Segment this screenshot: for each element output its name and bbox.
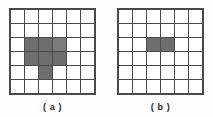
grid-cell [39, 10, 52, 23]
grid-a [9, 8, 96, 95]
panel-b: ( b ) [117, 8, 204, 112]
grid-cell [119, 80, 132, 93]
grid-cell [67, 52, 80, 65]
grid-cell [175, 80, 188, 93]
grid-cell [39, 38, 52, 51]
grid-cell [147, 38, 160, 51]
grid-cell [133, 24, 146, 37]
grid-cell [81, 52, 94, 65]
grid-cell [175, 52, 188, 65]
grid-cell [119, 52, 132, 65]
grid-cell [67, 10, 80, 23]
grid-cell [25, 24, 38, 37]
grid-cell [39, 52, 52, 65]
grid-cell [133, 80, 146, 93]
figure-container: ( a ) ( b ) [0, 0, 213, 117]
grid-cell [53, 66, 66, 79]
grid-cell [189, 38, 202, 51]
grid-cell [147, 52, 160, 65]
grid-cell [53, 52, 66, 65]
grid-cell [81, 66, 94, 79]
grid-cell [161, 38, 174, 51]
grid-cell [25, 52, 38, 65]
grid-cell [67, 66, 80, 79]
grid-cell [119, 10, 132, 23]
grid-cell [189, 24, 202, 37]
grid-cell [11, 80, 24, 93]
grid-cell [81, 24, 94, 37]
grid-cell [133, 52, 146, 65]
grid-cell [11, 66, 24, 79]
grid-cell [25, 80, 38, 93]
grid-cell [81, 10, 94, 23]
grid-cell [175, 10, 188, 23]
grid-cell [147, 80, 160, 93]
grid-cell [53, 10, 66, 23]
grid-cell [39, 24, 52, 37]
grid-cell [147, 24, 160, 37]
grid-cell [189, 10, 202, 23]
grid-cell [11, 38, 24, 51]
grid-cell [119, 66, 132, 79]
grid-cell [161, 10, 174, 23]
grid-cell [39, 66, 52, 79]
grid-cell [119, 38, 132, 51]
grid-cell [189, 66, 202, 79]
grid-cell [53, 38, 66, 51]
grid-cell [25, 10, 38, 23]
grid-cell [67, 38, 80, 51]
grid-cell [25, 38, 38, 51]
grid-b [117, 8, 204, 95]
grid-cell [147, 66, 160, 79]
grid-cell [25, 66, 38, 79]
panel-a: ( a ) [9, 8, 96, 112]
grid-cell [67, 24, 80, 37]
grid-cell [133, 38, 146, 51]
grid-cell [189, 80, 202, 93]
grid-cell [133, 10, 146, 23]
grid-cell [39, 80, 52, 93]
grid-cell [189, 52, 202, 65]
grid-cell [161, 24, 174, 37]
grid-cell [133, 66, 146, 79]
grid-cell [11, 24, 24, 37]
grid-cell [175, 38, 188, 51]
grid-cell [119, 24, 132, 37]
grid-cell [161, 66, 174, 79]
grid-cell [53, 24, 66, 37]
grid-cell [147, 10, 160, 23]
caption-a: ( a ) [43, 103, 62, 112]
grid-cell [161, 80, 174, 93]
grid-cell [161, 52, 174, 65]
caption-b: ( b ) [151, 103, 171, 112]
grid-cell [81, 38, 94, 51]
grid-cell [67, 80, 80, 93]
grid-cell [81, 80, 94, 93]
grid-cell [11, 52, 24, 65]
grid-cell [11, 10, 24, 23]
grid-cell [175, 66, 188, 79]
grid-cell [53, 80, 66, 93]
grid-cell [175, 24, 188, 37]
